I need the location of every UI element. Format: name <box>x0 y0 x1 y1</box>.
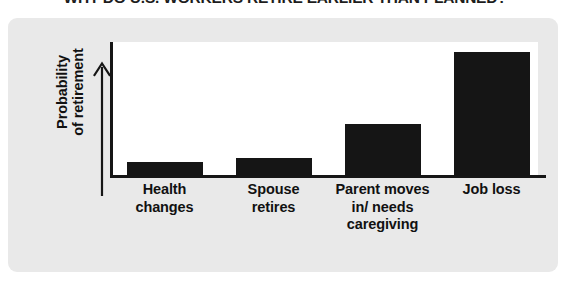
y-axis-title-line-1: Probability <box>54 55 71 129</box>
x-axis-label-line: in/ needs <box>328 199 437 217</box>
x-axis-label-line: Parent moves <box>328 181 437 199</box>
x-axis-label: Healthchanges <box>110 181 219 216</box>
bars-layer <box>110 42 546 176</box>
bar <box>236 158 312 176</box>
x-axis-label: Spouseretires <box>219 181 328 216</box>
chart-card: Probability of retirement HealthchangesS… <box>8 18 558 272</box>
x-axis-label: Parent movesin/ needscaregiving <box>328 181 437 234</box>
x-axis-label-line: retires <box>219 199 328 217</box>
bar <box>127 162 203 176</box>
x-axis-label-line: changes <box>110 199 219 217</box>
y-axis-title-line-2: of retirement <box>70 48 87 135</box>
bar <box>454 52 530 176</box>
x-axis-label-line: Job loss <box>437 181 546 199</box>
x-axis-label-line: caregiving <box>328 216 437 234</box>
x-axis-label-line: Spouse <box>219 181 328 199</box>
bar <box>345 124 421 176</box>
y-axis-title: Probability of retirement <box>48 0 92 187</box>
x-axis-label: Job loss <box>437 181 546 199</box>
x-axis-labels: HealthchangesSpouseretiresParent movesin… <box>110 181 546 251</box>
x-axis-label-line: Health <box>110 181 219 199</box>
